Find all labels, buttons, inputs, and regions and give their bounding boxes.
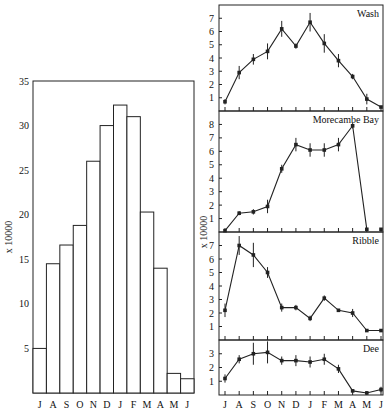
y-tick-label: 3 xyxy=(209,348,214,359)
y-tick-label: 1 xyxy=(209,92,214,103)
y-tick-label: 30 xyxy=(19,120,29,131)
data-point xyxy=(252,253,256,257)
bar xyxy=(33,348,46,393)
panel-frame xyxy=(219,340,383,395)
data-point xyxy=(365,329,369,333)
panel-frame xyxy=(219,5,383,111)
data-point xyxy=(365,391,369,395)
data-point xyxy=(266,271,270,275)
y-tick-label: 5 xyxy=(209,267,214,278)
x-tick-label: A xyxy=(50,399,58,410)
x-tick-label: J xyxy=(308,399,312,410)
bar-chart: 5101520253035JASONDJFMAMJx 10000 xyxy=(3,76,194,411)
y-tick-label: 5 xyxy=(209,39,214,50)
y-tick-label: 7 xyxy=(209,240,214,251)
panel-title: Wash xyxy=(357,8,379,19)
x-tick-label: A xyxy=(157,399,165,410)
data-point xyxy=(252,352,256,356)
panel-title: Ribble xyxy=(352,235,379,246)
bar xyxy=(167,373,180,393)
data-point xyxy=(365,228,369,232)
x-tick-label: M xyxy=(143,399,152,410)
y-axis-label: x 10000 xyxy=(3,221,14,254)
y-tick-label: 3 xyxy=(209,186,214,197)
y-tick-label: 7 xyxy=(209,13,214,24)
data-point xyxy=(308,20,312,24)
data-point xyxy=(223,100,227,104)
x-tick-label: S xyxy=(251,399,257,410)
x-tick-label: O xyxy=(76,399,83,410)
data-point xyxy=(379,329,383,333)
data-point xyxy=(365,97,369,101)
bar xyxy=(100,126,113,393)
data-line xyxy=(225,352,381,393)
data-point xyxy=(351,311,355,315)
y-tick-label: 2 xyxy=(209,362,214,373)
x-tick-label: S xyxy=(64,399,70,410)
data-point xyxy=(308,148,312,152)
y-tick-label: 6 xyxy=(209,146,214,157)
data-point xyxy=(308,360,312,364)
y-tick-label: 2 xyxy=(209,200,214,211)
y-tick-label: 5 xyxy=(24,343,29,354)
data-point xyxy=(280,306,284,310)
bar xyxy=(87,161,100,393)
data-point xyxy=(294,306,298,310)
x-tick-label: A xyxy=(349,399,357,410)
data-point xyxy=(252,210,256,214)
x-tick-label: O xyxy=(264,399,271,410)
y-tick-label: 3 xyxy=(209,294,214,305)
data-point xyxy=(379,388,383,392)
bar xyxy=(73,225,86,393)
data-point xyxy=(322,42,326,46)
data-point xyxy=(294,44,298,48)
y-axis-label-right: x 10000 xyxy=(198,216,209,249)
bar xyxy=(154,268,167,393)
line-panel-dee: 123Dee xyxy=(209,340,383,395)
x-tick-label: N xyxy=(90,399,97,410)
data-point xyxy=(280,167,284,171)
data-point xyxy=(237,357,241,361)
data-point xyxy=(280,27,284,31)
data-point xyxy=(351,75,355,79)
data-point xyxy=(237,71,241,75)
y-tick-label: 35 xyxy=(19,76,29,87)
y-tick-label: 10 xyxy=(19,298,29,309)
data-point xyxy=(223,309,227,313)
data-point xyxy=(351,389,355,393)
x-tick-label: J xyxy=(185,399,189,410)
data-point xyxy=(322,357,326,361)
x-tick-label: A xyxy=(236,399,244,410)
y-tick-label: 7 xyxy=(209,132,214,143)
panel-title: Dee xyxy=(363,343,380,354)
bar xyxy=(127,117,140,393)
y-tick-label: 1 xyxy=(209,376,214,387)
y-tick-label: 5 xyxy=(209,159,214,170)
data-point xyxy=(266,351,270,355)
y-tick-label: 15 xyxy=(19,254,29,265)
data-point xyxy=(337,309,341,313)
bar xyxy=(60,245,73,393)
data-point xyxy=(223,377,227,381)
data-point xyxy=(379,228,383,232)
line-panel-morecambe-bay: 12345678Morecambe Bay xyxy=(209,111,383,232)
data-point xyxy=(337,367,341,371)
x-tick-label: M xyxy=(334,399,343,410)
bar xyxy=(181,379,194,393)
data-point xyxy=(337,59,341,63)
data-point xyxy=(237,211,241,215)
x-tick-label: D xyxy=(103,399,110,410)
data-point xyxy=(308,317,312,321)
data-point xyxy=(322,148,326,152)
data-point xyxy=(294,143,298,147)
panel-title: Morecambe Bay xyxy=(313,114,379,125)
x-tick-label: J xyxy=(118,399,122,410)
data-point xyxy=(280,359,284,363)
y-tick-label: 8 xyxy=(209,119,214,130)
y-tick-label: 25 xyxy=(19,165,29,176)
x-tick-label: N xyxy=(278,399,285,410)
bar xyxy=(140,212,153,393)
x-tick-label: J xyxy=(38,399,42,410)
x-tick-label: F xyxy=(321,399,327,410)
data-point xyxy=(379,105,383,109)
